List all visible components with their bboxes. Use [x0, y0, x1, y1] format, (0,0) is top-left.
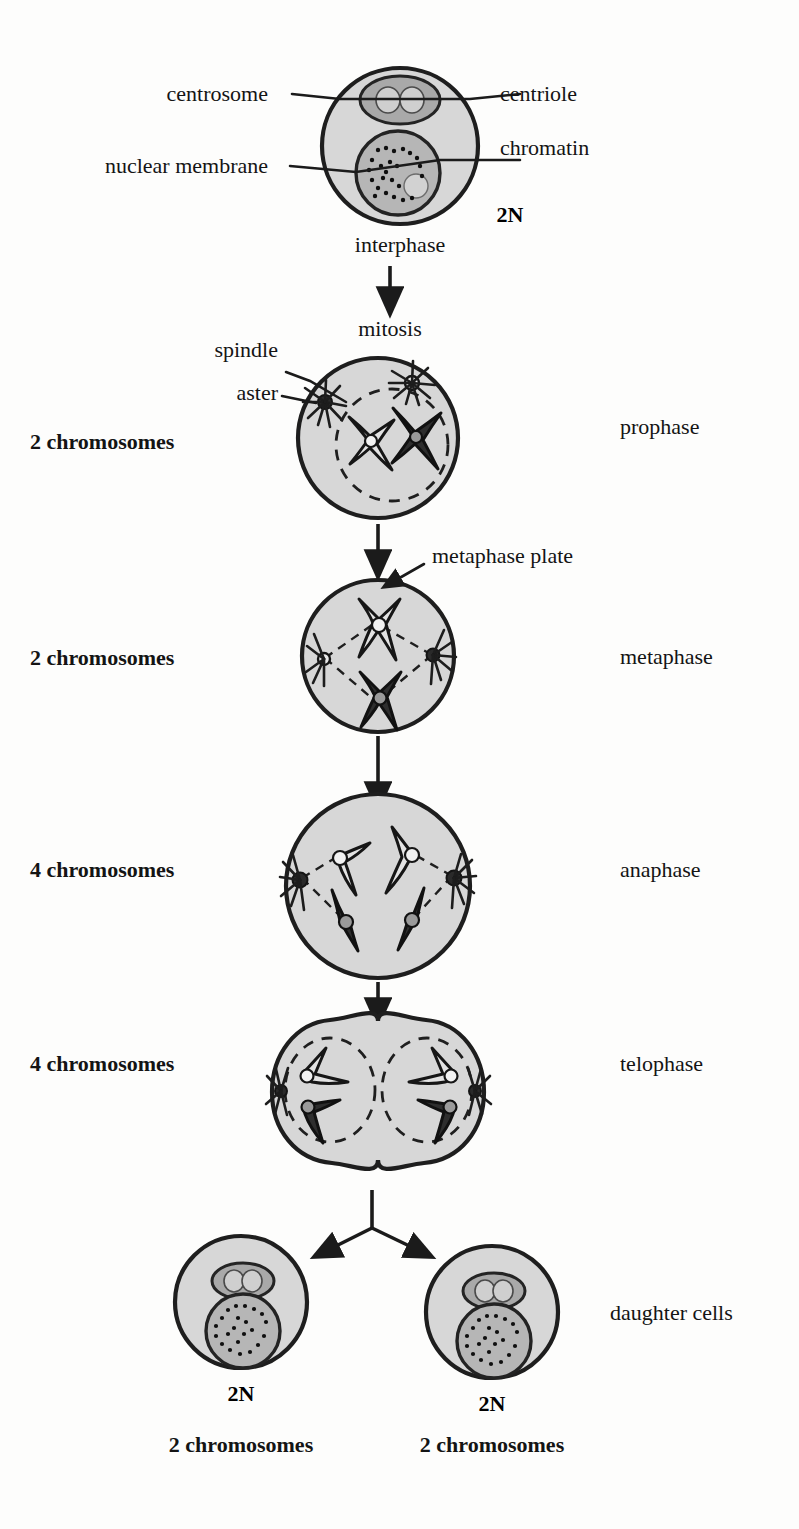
label-chromatin: chromatin — [500, 135, 589, 160]
label-phase-anaphase: anaphase — [620, 857, 701, 882]
centriole-icon — [475, 1280, 495, 1302]
centriole-icon — [242, 1270, 262, 1292]
stage-interphase: centrosome centriole nuclear membrane ch… — [105, 68, 589, 257]
label-aster: aster — [236, 380, 278, 405]
flow-fork-to-daughter-cells — [322, 1190, 424, 1253]
daughter-cell-left: 2N 2 chromosomes — [169, 1236, 314, 1457]
label-count-daughter-left: 2 chromosomes — [169, 1432, 314, 1457]
label-mitosis: mitosis — [358, 316, 422, 341]
daughter-left-nucleus — [206, 1294, 280, 1368]
centriole-icon — [493, 1280, 513, 1302]
label-spindle: spindle — [214, 337, 278, 362]
stage-prophase: spindle aster 2 chromosomes prophase — [30, 337, 699, 518]
label-count-anaphase: 4 chromosomes — [30, 857, 175, 882]
label-ploidy-daughter-right: 2N — [479, 1391, 506, 1416]
metaphase-plate-leader-line — [389, 564, 424, 584]
daughter-cell-right: 2N 2 chromosomes — [420, 1246, 565, 1457]
anaphase-cell-membrane — [286, 794, 470, 978]
label-nuclear-membrane: nuclear membrane — [105, 153, 268, 178]
label-phase-interphase: interphase — [355, 232, 445, 257]
daughter-right-nucleus — [457, 1304, 531, 1378]
label-daughter-cells: daughter cells — [610, 1300, 733, 1325]
label-centrosome: centrosome — [167, 81, 268, 106]
label-ploidy-daughter-left: 2N — [228, 1381, 255, 1406]
aster-far-left-telophase — [266, 1068, 288, 1115]
stage-telophase: 4 chromosomes telophase — [30, 1013, 703, 1169]
label-phase-metaphase: metaphase — [620, 644, 713, 669]
telophase-cell-membrane — [272, 1013, 484, 1169]
label-phase-telophase: telophase — [620, 1051, 703, 1076]
label-count-telophase: 4 chromosomes — [30, 1051, 175, 1076]
aster-far-right-telophase — [468, 1068, 491, 1115]
label-centriole: centriole — [500, 81, 577, 106]
label-phase-prophase: prophase — [620, 414, 699, 439]
label-count-daughter-right: 2 chromosomes — [420, 1432, 565, 1457]
centriole-icon — [224, 1270, 244, 1292]
stage-anaphase: 4 chromosomes anaphase — [30, 794, 701, 978]
label-ploidy-interphase: 2N — [497, 202, 524, 227]
label-metaphase-plate: metaphase plate — [432, 543, 573, 568]
mitosis-diagram-page: centrosome centriole nuclear membrane ch… — [0, 0, 799, 1529]
interphase-nucleus — [356, 131, 440, 215]
mitosis-diagram-svg: centrosome centriole nuclear membrane ch… — [0, 0, 799, 1529]
stage-metaphase: metaphase plate 2 chromosomes metaphase — [30, 543, 713, 732]
label-count-metaphase: 2 chromosomes — [30, 645, 175, 670]
label-count-prophase: 2 chromosomes — [30, 429, 175, 454]
nucleolus — [404, 174, 428, 198]
